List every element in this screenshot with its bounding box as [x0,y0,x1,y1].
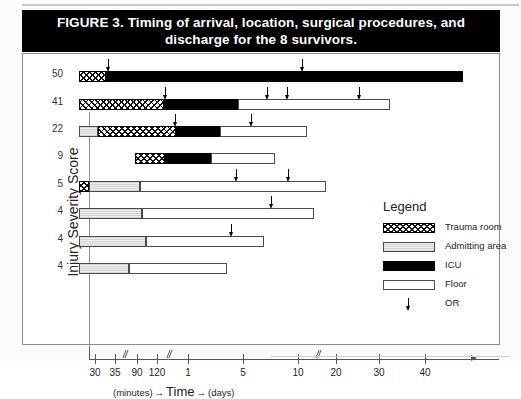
x-axis-caption-days: (days) [208,387,234,398]
legend-label: Trauma room [445,221,502,232]
or-marker [299,59,306,72]
timeline-segment-icu [176,126,220,137]
or-marker [172,114,179,127]
x-axis-tick-label: 120 [142,367,172,378]
timeline-segment-floor [211,153,275,164]
patient-timeline-row [23,99,493,110]
or-marker [285,169,292,182]
legend-or-icon [405,298,412,311]
or-marker [228,224,235,237]
legend-label: OR [445,297,459,308]
legend-swatch-admit [383,242,435,252]
or-arrow-head [234,177,238,182]
x-axis-tick-label: 1 [173,367,203,378]
or-arrow-head [300,67,304,72]
x-axis-tick [115,354,116,364]
legend-swatch-floor [383,280,435,290]
or-marker [264,87,271,100]
x-axis-caption-time: Time [166,384,194,399]
timeline-segment-floor [142,208,314,219]
timeline-segment-trauma-room [79,181,89,192]
or-marker [284,87,291,100]
caption-arrow-1: → [155,387,165,398]
x-axis-tick [157,354,158,364]
or-marker [248,114,255,127]
or-arrow-head [265,95,269,100]
or-marker [356,87,363,100]
figure-title-line-2: discharge for the 8 survivors. [32,31,490,48]
axis-break-mark [124,350,128,359]
figure-title: FIGURE 3. Timing of arrival, location, s… [32,14,490,48]
x-axis-caption: (minutes)→Time→(days) [113,384,234,399]
timeline-segment-floor [129,263,227,274]
or-arrow-head [406,306,410,311]
x-axis-tick-label: 20 [321,367,351,378]
or-arrow-head [229,232,233,237]
x-axis-tick [137,354,138,364]
legend-label: ICU [445,259,461,270]
legend-item-icu: ICU [383,259,513,278]
timeline-segment-floor [146,236,264,247]
patient-timeline-row [23,181,493,192]
axis-break-mark [168,350,172,359]
timeline-segment-admitting-area [79,263,129,274]
or-marker [233,169,240,182]
or-arrow-head [163,95,167,100]
or-arrow-head [249,122,253,127]
y-axis-line [89,112,90,348]
timeline-segment-icu [165,153,211,164]
timeline-segment-floor [220,126,307,137]
legend-item-arrow: OR [383,297,513,316]
axis-break-mark [317,350,321,359]
or-arrow-head [357,95,361,100]
timeline-segment-admitting-area [79,208,142,219]
patient-timeline-row [23,153,493,164]
x-axis-tick-label: 30 [364,367,394,378]
or-arrow-head [286,177,290,182]
legend: Legend Trauma roomAdmitting areaICUFloor… [383,199,513,316]
legend-rows: Trauma roomAdmitting areaICUFloorOR [383,221,513,316]
figure-title-bar: FIGURE 3. Timing of arrival, location, s… [22,10,500,52]
legend-item-admit: Admitting area [383,240,513,259]
timeline-segment-trauma-room [98,126,176,137]
plot-frame: Injury Severity Score 50412295444 303590… [22,53,500,345]
timeline-segment-floor [140,181,326,192]
x-axis-tick-label: 10 [283,367,313,378]
patient-timeline-row [23,71,493,82]
or-arrow-head [285,95,289,100]
patient-timeline-row [23,126,493,137]
x-axis-tick-label: 40 [410,367,440,378]
or-arrow-head [269,204,273,209]
legend-label: Floor [445,278,467,289]
or-arrow-head [173,122,177,127]
legend-label: Admitting area [445,240,506,251]
x-axis-tick-label: 5 [228,367,258,378]
x-axis-line [89,359,499,360]
timeline-segment-trauma-room [79,71,106,82]
or-marker [268,196,275,209]
timeline-segment-icu [106,71,463,82]
x-axis-tick [188,354,189,364]
or-marker [162,87,169,100]
x-axis-tick [95,354,96,364]
timeline-segment-trauma-room [135,153,165,164]
caption-arrow-2: → [197,387,207,398]
timeline-segment-admitting-area [79,236,146,247]
timeline-segment-trauma-room [79,99,164,110]
figure-title-line-1: FIGURE 3. Timing of arrival, location, s… [32,14,490,31]
legend-item-floor: Floor [383,278,513,297]
or-arrow-head [106,67,110,72]
x-axis-tick [243,354,244,364]
legend-item-trauma: Trauma room [383,221,513,240]
legend-swatch-trauma [383,223,435,233]
timeline-segment-floor [238,99,390,110]
legend-title: Legend [383,199,513,214]
or-marker [105,59,112,72]
top-divider [22,4,519,6]
timeline-segment-icu [164,99,238,110]
timeline-segment-admitting-area [79,126,98,137]
bottom-divider [270,356,510,357]
legend-swatch-icu [383,261,435,271]
x-axis-caption-minutes: (minutes) [113,387,153,398]
